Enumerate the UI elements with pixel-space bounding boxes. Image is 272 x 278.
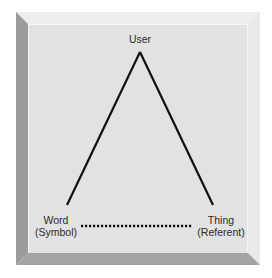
edge-word-user [67,52,140,205]
node-user: User [129,33,151,45]
node-thing-referent: Thing (Referent) [197,214,244,238]
edge-user-thing [140,52,213,205]
node-thing-line-1: Thing [197,214,244,226]
node-word-symbol: Word (Symbol) [35,214,77,238]
node-user-line-1: User [129,33,151,45]
node-word-line-2: (Symbol) [35,226,77,238]
node-thing-line-2: (Referent) [197,226,244,238]
node-word-line-1: Word [35,214,77,226]
